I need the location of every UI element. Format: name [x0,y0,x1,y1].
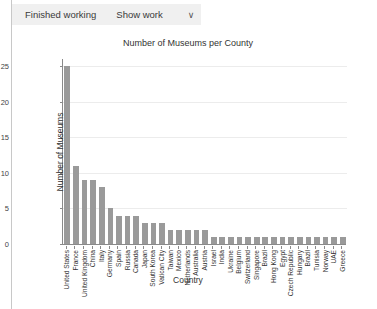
bar[interactable] [73,166,79,244]
x-tick-slot [251,246,260,248]
bar[interactable] [271,237,277,244]
bar[interactable] [340,237,346,244]
x-tick-label: Taiwan [166,250,173,271]
x-tick-label: Brazil [261,250,268,267]
bar[interactable] [280,237,286,244]
x-tick-slot [131,246,140,248]
chevron-down-icon[interactable]: ∨ [188,10,195,20]
x-tick-slot [105,246,114,248]
x-axis-ticks [62,246,346,248]
x-tick-slot [165,246,174,248]
x-tick-label: Spain [114,250,121,267]
bar[interactable] [185,230,191,244]
bar-slot [158,59,167,244]
bar[interactable] [219,237,225,244]
x-tick-mark [135,246,136,249]
bar[interactable] [194,230,200,244]
plot-area: Number of Museums 0510152025 [62,59,346,245]
bar[interactable] [323,237,329,244]
bar[interactable] [331,237,337,244]
bar[interactable] [262,237,268,244]
bar[interactable] [133,216,139,244]
x-tick-label: Norway [321,250,328,272]
x-tick-label: France [71,250,78,271]
chart-card: Number of Museums per County Number of M… [12,29,364,301]
bar-series [63,59,347,244]
bar[interactable] [288,237,294,244]
x-tick-mark [195,246,196,249]
bar[interactable] [176,230,182,244]
bar-slot [295,59,304,244]
x-tick-label: UAE [330,250,337,264]
x-tick-label: Japan [140,250,147,268]
x-tick-slot [303,246,312,248]
x-tick-mark [161,246,162,249]
x-tick-slot [312,246,321,248]
bar[interactable] [142,223,148,244]
y-tick-label: 25 [0,62,9,71]
bar-slot [89,59,98,244]
x-tick-slot [62,246,71,248]
bar[interactable] [254,237,260,244]
bar[interactable] [108,208,114,244]
x-tick-mark [341,246,342,249]
x-tick-label: Egypt [278,250,285,267]
bar[interactable] [237,237,243,244]
x-tick-mark [92,246,93,249]
x-tick-slot [277,246,286,248]
x-tick-mark [117,246,118,249]
x-tick-mark [126,246,127,249]
x-tick-mark [143,246,144,249]
bar-slot [244,59,253,244]
bar-slot [175,59,184,244]
x-tick-mark [255,246,256,249]
bar-slot [261,59,270,244]
bar-slot [278,59,287,244]
x-tick-slot [234,246,243,248]
bar-slot [252,59,261,244]
bar[interactable] [297,237,303,244]
x-tick-slot [71,246,80,248]
bar[interactable] [211,237,217,244]
x-tick-mark [109,246,110,249]
x-tick-mark [66,246,67,249]
bar[interactable] [168,230,174,244]
bar[interactable] [245,237,251,244]
x-tick-label: Czech Republic [287,250,294,296]
x-tick-mark [298,246,299,249]
bar[interactable] [151,223,157,244]
x-tick-slot [338,246,347,248]
y-tick-label: 20 [0,98,9,107]
x-tick-slot [269,246,278,248]
bar[interactable] [116,216,122,244]
show-work-button[interactable]: Show work [116,9,162,20]
bar-slot [115,59,124,244]
x-tick-slot [217,246,226,248]
bar[interactable] [306,237,312,244]
bar[interactable] [82,180,88,244]
x-tick-mark [229,246,230,249]
x-tick-label: Ukraine [226,250,233,273]
x-tick-slot [329,246,338,248]
x-tick-mark [238,246,239,249]
x-tick-slot [139,246,148,248]
agent-status-bar: Finished working Show work ∨ [12,4,201,25]
bar[interactable] [159,223,165,244]
x-tick-slot [79,246,88,248]
bar-slot [235,59,244,244]
x-tick-slot [88,246,97,248]
bar[interactable] [202,230,208,244]
bar[interactable] [90,180,96,244]
bar[interactable] [228,237,234,244]
x-tick-label: Hungary [295,250,302,275]
x-tick-slot [294,246,303,248]
x-tick-mark [290,246,291,249]
bar-slot [304,59,313,244]
x-axis-label: Country [12,275,364,285]
bar[interactable] [99,187,105,244]
bar[interactable] [125,216,131,244]
bar[interactable] [314,237,320,244]
bar[interactable] [64,66,70,244]
y-tick-label: 15 [0,133,9,142]
x-tick-slot [96,246,105,248]
